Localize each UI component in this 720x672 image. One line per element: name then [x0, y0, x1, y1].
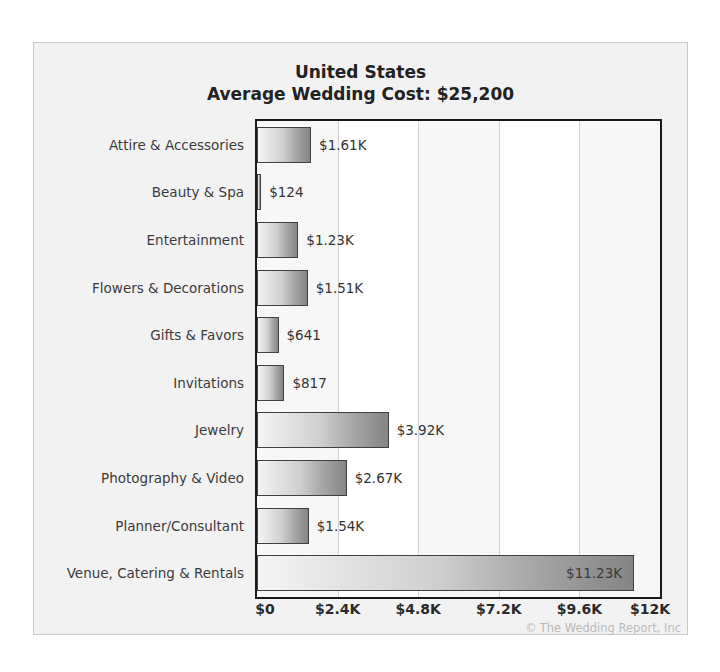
category-label: Photography & Video — [101, 470, 244, 486]
bar-value-label: $641 — [287, 327, 321, 343]
bar-value-label: $124 — [269, 184, 303, 200]
bar-series: $1.61K$124$1.23K$1.51K$641$817$3.92K$2.6… — [257, 121, 660, 597]
bar-value-label: $11.23K — [566, 565, 622, 581]
clipped-text: a l i m — [60, 0, 116, 2]
bar-row[interactable]: $641 — [257, 317, 660, 353]
copyright-symbol: © — [525, 621, 537, 635]
bar-row[interactable]: $3.92K — [257, 412, 660, 448]
bar[interactable] — [257, 270, 308, 306]
bar-value-label: $1.23K — [306, 232, 354, 248]
bar[interactable] — [257, 174, 261, 210]
category-label: Beauty & Spa — [152, 184, 244, 200]
x-tick-label: $12K — [630, 601, 670, 617]
copyright-text: The Wedding Report, Inc — [540, 621, 681, 635]
bar-row[interactable]: $1.54K — [257, 508, 660, 544]
bar[interactable] — [257, 412, 389, 448]
bar-row[interactable]: $1.61K — [257, 127, 660, 163]
category-label: Flowers & Decorations — [92, 280, 244, 296]
chart-title-block: United States Average Wedding Cost: $25,… — [34, 61, 687, 105]
x-tick-label: $2.4K — [315, 601, 360, 617]
bar-value-label: $817 — [292, 375, 326, 391]
bar-row[interactable]: $11.23K — [257, 555, 660, 591]
x-tick-label: $4.8K — [395, 601, 440, 617]
category-label: Attire & Accessories — [109, 137, 244, 153]
bar[interactable] — [257, 365, 284, 401]
category-label: Invitations — [173, 375, 244, 391]
bar-row[interactable]: $2.67K — [257, 460, 660, 496]
x-tick-label: $7.2K — [476, 601, 521, 617]
bar[interactable] — [257, 127, 311, 163]
clipped-text-strip: a l i m — [0, 0, 720, 14]
x-tick-label: $0 — [255, 601, 274, 617]
chart-figure: United States Average Wedding Cost: $25,… — [33, 42, 688, 635]
bar[interactable] — [257, 222, 298, 258]
chart-title: United States — [34, 61, 687, 83]
chart-subtitle: Average Wedding Cost: $25,200 — [34, 83, 687, 105]
bar[interactable] — [257, 460, 347, 496]
bar[interactable] — [257, 317, 279, 353]
bar[interactable] — [257, 508, 309, 544]
copyright-notice: ©The Wedding Report, Inc — [525, 621, 681, 635]
category-label: Planner/Consultant — [115, 518, 244, 534]
bar-value-label: $1.61K — [319, 137, 367, 153]
category-axis-labels: Attire & AccessoriesBeauty & SpaEntertai… — [34, 119, 250, 599]
x-axis-tick-labels: $0$2.4K$4.8K$7.2K$9.6K$12K — [255, 601, 662, 623]
category-label: Jewelry — [195, 422, 244, 438]
category-label: Entertainment — [147, 232, 244, 248]
bar-value-label: $3.92K — [397, 422, 445, 438]
bar-value-label: $1.54K — [317, 518, 365, 534]
bar-row[interactable]: $1.51K — [257, 270, 660, 306]
bar-row[interactable]: $1.23K — [257, 222, 660, 258]
category-label: Gifts & Favors — [150, 327, 244, 343]
category-label: Venue, Catering & Rentals — [67, 565, 244, 581]
x-tick-label: $9.6K — [557, 601, 602, 617]
plot-area: $1.61K$124$1.23K$1.51K$641$817$3.92K$2.6… — [255, 119, 662, 599]
bar-row[interactable]: $124 — [257, 174, 660, 210]
bar-value-label: $1.51K — [316, 280, 364, 296]
bar-value-label: $2.67K — [355, 470, 403, 486]
bar-row[interactable]: $817 — [257, 365, 660, 401]
